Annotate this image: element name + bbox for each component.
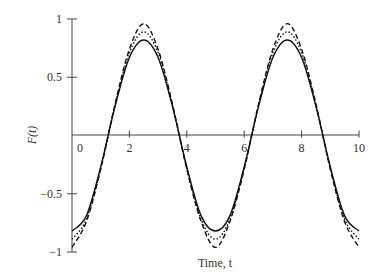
x-axis-label: Time, t: [198, 256, 233, 270]
x-tick-label: 2: [126, 141, 132, 155]
y-axis-label: F(t): [25, 126, 39, 146]
x-ticks: 0246810: [77, 131, 365, 155]
y-tick-label: −0.5: [40, 187, 62, 201]
x-axis: 0246810: [72, 131, 365, 155]
x-tick-label: 4: [184, 141, 190, 155]
y-tick-label: 1: [56, 12, 62, 26]
x-tick-label: 10: [353, 141, 365, 155]
x-tick-label: 8: [299, 141, 305, 155]
line-chart: 10.5−0.5−1 0246810 F(t) Time, t: [0, 0, 382, 275]
y-ticks: 10.5−0.5−1: [40, 12, 77, 259]
y-axis: 10.5−0.5−1: [40, 12, 77, 259]
x-tick-label: 0: [77, 141, 83, 155]
y-tick-label: −1: [49, 245, 62, 259]
x-tick-label: 6: [241, 141, 247, 155]
y-tick-label: 0.5: [47, 70, 62, 84]
